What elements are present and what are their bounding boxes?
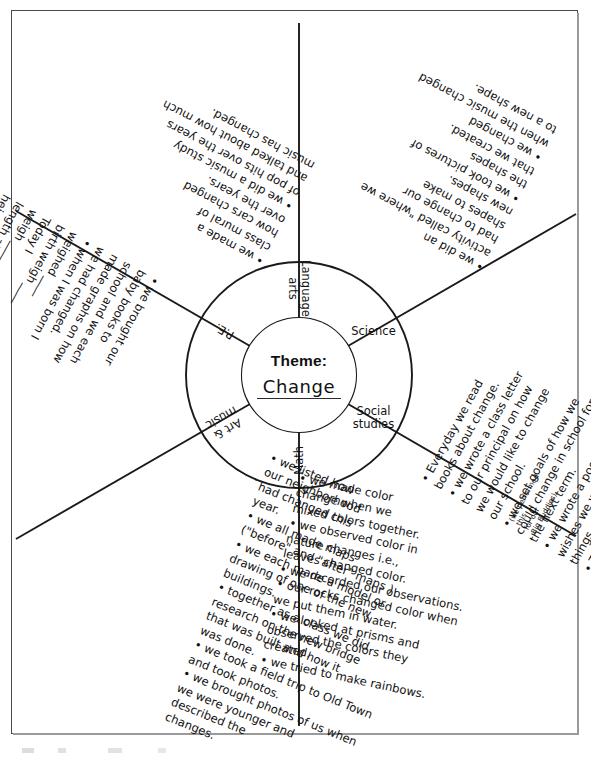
theme-value[interactable]: Change xyxy=(263,376,336,397)
theme-write-line xyxy=(257,398,341,399)
scan-artifact xyxy=(18,748,268,753)
segment-label-social-studies-text: Social studies xyxy=(336,405,410,430)
worksheet-page: Theme: Change Art & music P.E. Language … xyxy=(0,0,591,762)
segment-label-language-arts-text: Language arts xyxy=(287,254,312,324)
segment-label-science-text: Science xyxy=(338,325,408,338)
theme-label: Theme: xyxy=(271,352,327,370)
